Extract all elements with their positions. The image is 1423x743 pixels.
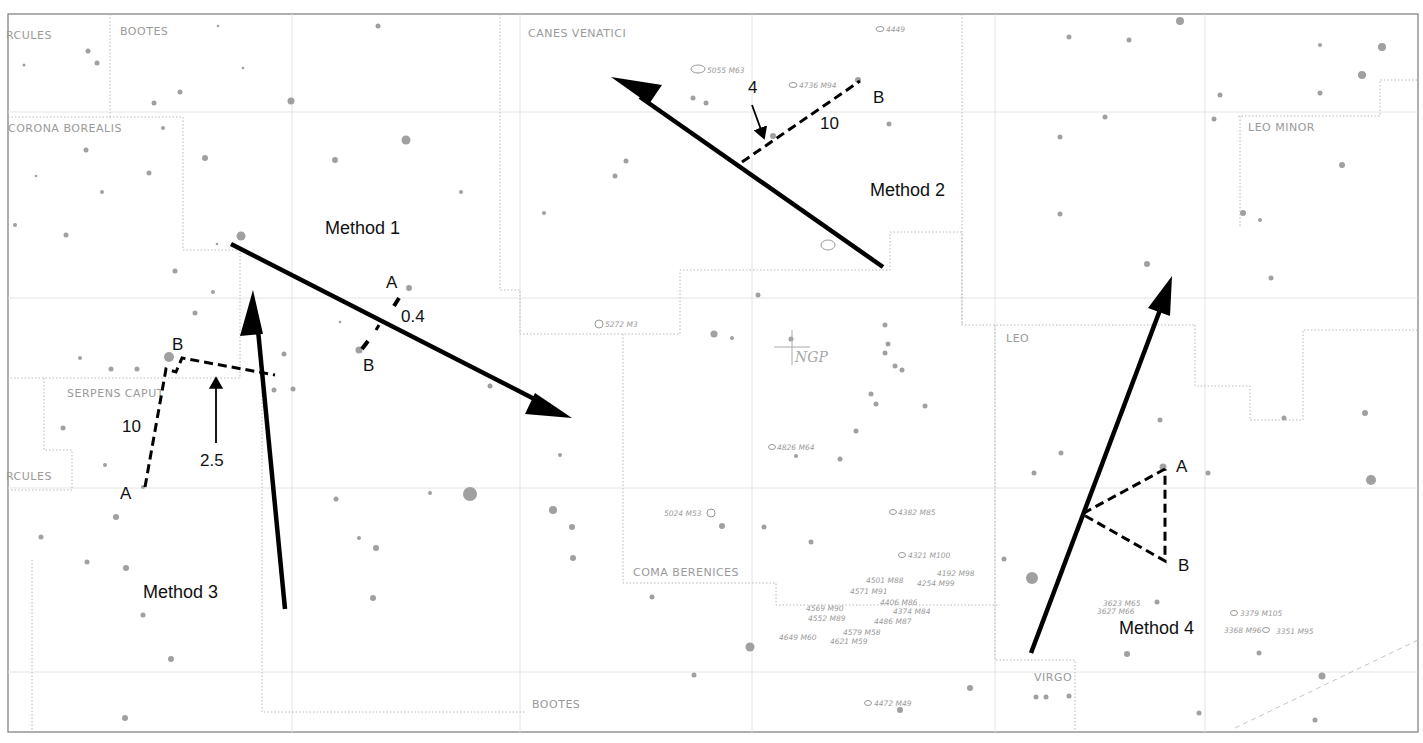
constellation-label: RCULES <box>6 29 52 42</box>
constellation-label: BOOTES <box>532 698 580 711</box>
star-chart: NGP RCULES BOOTES CORONA BOREALIS CANES … <box>0 0 1423 743</box>
distance-label: 0.4 <box>401 307 425 326</box>
svg-text:4501 M88: 4501 M88 <box>866 576 904 585</box>
svg-text:3351 M95: 3351 M95 <box>1276 627 1314 636</box>
constellation-label: RCULES <box>6 470 52 483</box>
svg-text:4486 M87: 4486 M87 <box>874 617 912 626</box>
svg-text:4321 M100: 4321 M100 <box>908 551 950 560</box>
point-a-label: A <box>1176 457 1188 476</box>
chart-frame <box>8 14 1418 732</box>
svg-text:4736 M94: 4736 M94 <box>799 81 837 90</box>
svg-text:4579 M58: 4579 M58 <box>843 628 881 637</box>
svg-text:4649 M60: 4649 M60 <box>779 633 817 642</box>
svg-text:4382 M85: 4382 M85 <box>898 508 936 517</box>
constellation-label: VIRGO <box>1034 671 1072 684</box>
point-b-label: B <box>873 88 884 107</box>
svg-text:3379 M105: 3379 M105 <box>1240 609 1282 618</box>
point-b-label: B <box>1178 556 1189 575</box>
svg-text:4472 M49: 4472 M49 <box>874 699 912 708</box>
svg-text:5055 M63: 5055 M63 <box>707 66 745 75</box>
svg-text:4621 M59: 4621 M59 <box>830 637 868 646</box>
svg-text:4192 M98: 4192 M98 <box>937 569 975 578</box>
svg-text:5024 M53: 5024 M53 <box>664 509 702 518</box>
method-4-title: Method 4 <box>1119 618 1194 638</box>
distance-label: 2.5 <box>200 451 224 470</box>
method-1-title: Method 1 <box>325 218 400 238</box>
constellation-label: LEO MINOR <box>1248 121 1315 134</box>
svg-text:5272 M3: 5272 M3 <box>605 320 638 329</box>
constellation-label: CORONA BOREALIS <box>8 122 122 135</box>
svg-text:4449: 4449 <box>886 25 905 34</box>
svg-text:3627 M66: 3627 M66 <box>1097 607 1135 616</box>
svg-text:4374 M84: 4374 M84 <box>893 607 931 616</box>
point-a-label: A <box>120 484 132 503</box>
svg-text:4406 M86: 4406 M86 <box>880 598 918 607</box>
svg-text:4569 M90: 4569 M90 <box>806 604 844 613</box>
svg-text:NGP: NGP <box>794 349 828 365</box>
constellation-label: COMA BERENICES <box>633 566 739 579</box>
point-b-label: B <box>363 356 374 375</box>
distance-label: 10 <box>820 114 839 133</box>
method-3-title: Method 3 <box>143 582 218 602</box>
svg-text:4254 M99: 4254 M99 <box>917 579 955 588</box>
constellation-label: BOOTES <box>120 25 168 38</box>
constellation-label: SERPENS CAPUT <box>67 387 164 400</box>
distance-label: 4 <box>748 78 757 97</box>
svg-text:4552 M89: 4552 M89 <box>808 614 846 623</box>
svg-text:4571 M91: 4571 M91 <box>850 587 888 596</box>
constellation-label: LEO <box>1006 332 1029 345</box>
svg-text:3368 M96: 3368 M96 <box>1224 626 1262 635</box>
distance-label: 10 <box>122 417 141 436</box>
svg-text:4826 M64: 4826 M64 <box>777 443 815 452</box>
method-2-title: Method 2 <box>870 180 945 200</box>
point-a-label: A <box>386 273 398 292</box>
constellation-label: CANES VENATICI <box>528 27 626 40</box>
point-b-label: B <box>172 335 183 354</box>
